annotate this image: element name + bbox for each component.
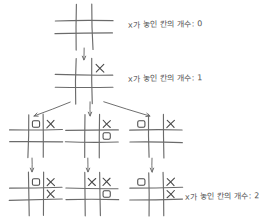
- arrow-branch-middle: [88, 102, 91, 116]
- label-depth-1: x가 놓인 칸의 개수: 1: [128, 71, 203, 84]
- arrow-layer: [0, 0, 272, 220]
- label-depth-0: x가 놓인 칸의 개수: 0: [128, 17, 203, 30]
- label-depth-2: x가 놓인 칸의 개수: 2: [185, 189, 260, 202]
- diagram-canvas: x가 놓인 칸의 개수: 0x가 놓인 칸의 개수: 1x가 놓인 칸의 개수:…: [0, 0, 272, 220]
- arrow-down-root: [82, 48, 85, 60]
- arrow-down-right: [150, 158, 153, 172]
- arrow-down-left: [30, 158, 33, 172]
- arrow-branch-left: [34, 102, 70, 116]
- arrow-branch-right: [104, 102, 150, 117]
- arrow-down-middle: [86, 158, 89, 172]
